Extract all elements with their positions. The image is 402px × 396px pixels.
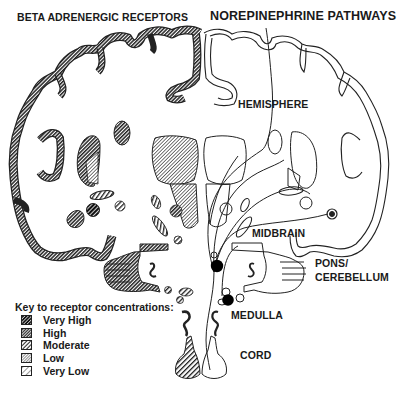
title-beta-adrenergic-receptors: BETA ADRENERGIC RECEPTORS: [17, 11, 188, 23]
legend-label: Moderate: [43, 339, 90, 351]
legend-title: Key to receptor concentrations:: [15, 301, 174, 313]
right-cerebellum: [232, 243, 306, 293]
label-pons-cerebellum: PONS/ CEREBELLUM: [315, 256, 389, 284]
legend-item-high: High: [21, 327, 174, 340]
legend-label: Very High: [43, 314, 91, 326]
label-cord: CORD: [240, 349, 271, 361]
low-swatch-icon: [21, 353, 32, 363]
medulla-nucleus: [222, 294, 234, 306]
label-cerebellum: CEREBELLUM: [315, 270, 389, 284]
legend: Key to receptor concentrations: Very Hig…: [15, 301, 174, 377]
left-deep-structures: [67, 121, 198, 244]
high-swatch-icon: [21, 328, 32, 338]
left-cerebellum: [104, 244, 168, 292]
very-high-swatch-icon: [21, 315, 32, 325]
legend-label: Low: [43, 352, 64, 364]
legend-label: Very Low: [43, 365, 89, 377]
locus-coeruleus-nucleus: [211, 260, 223, 272]
label-midbrain: MIDBRAIN: [252, 227, 305, 239]
legend-item-low: Low: [21, 352, 174, 365]
label-medulla: MEDULLA: [231, 309, 283, 321]
right-cortex: [204, 29, 389, 256]
legend-item-very-low: Very Low: [21, 364, 174, 377]
very-low-swatch-icon: [21, 366, 32, 376]
label-pons: PONS/: [315, 256, 389, 270]
legend-label: High: [43, 327, 66, 339]
title-norepinephrine-pathways: NOREPINEPHRINE PATHWAYS: [210, 9, 396, 23]
legend-item-moderate: Moderate: [21, 339, 174, 352]
moderate-swatch-icon: [21, 340, 32, 350]
right-deep-structures: [204, 130, 337, 239]
legend-item-very-high: Very High: [21, 314, 174, 327]
label-hemisphere: HEMISPHERE: [238, 98, 308, 110]
